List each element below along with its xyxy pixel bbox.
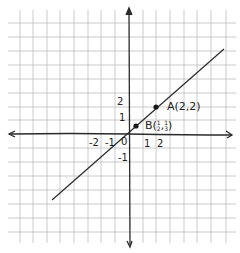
point-b [133,123,138,128]
x-tick-neg2: -2 [89,138,99,148]
x-tick-neg1: -1 [105,138,115,148]
x-tick-1: 1 [144,139,150,149]
y-tick-1: 1 [119,113,125,123]
origin-label: 0 [121,137,127,147]
grid-lines [8,10,236,243]
point-b-prefix: B( [145,119,157,132]
y-tick-neg1: -1 [118,153,128,163]
y-axis-up-arrow-icon [126,8,132,15]
y-axis [126,8,132,247]
point-a-label: A(2,2) [167,101,201,112]
y-tick-2: 2 [117,97,123,107]
x-tick-2: 2 [157,139,163,149]
point-b-label: B(12,13) [145,120,172,132]
point-a [153,104,158,109]
coordinate-plane [0,0,240,253]
